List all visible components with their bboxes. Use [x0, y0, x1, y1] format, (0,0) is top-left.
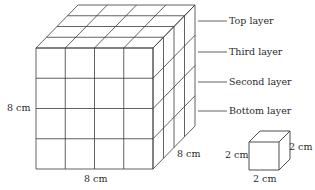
small-cube-width-label: 2 cm [253, 174, 276, 184]
large-cube-depth-label: 8 cm [177, 149, 200, 159]
cube-drawing [0, 0, 315, 190]
large-cube [36, 5, 195, 169]
small-cube-depth-label: 2 cm [289, 142, 312, 152]
large-cube-width-label: 8 cm [84, 174, 107, 184]
small-cube-height-label: 2 cm [225, 150, 248, 160]
label-third-layer: Third layer [229, 47, 282, 57]
label-second-layer: Second layer [229, 77, 292, 87]
layer-leader-lines [198, 21, 227, 111]
label-bottom-layer: Bottom layer [229, 106, 291, 116]
large-cube-height-label: 8 cm [7, 103, 30, 113]
small-cube [249, 131, 290, 170]
label-top-layer: Top layer [229, 16, 274, 26]
cube-layers-diagram: Top layer Third layer Second layer Botto… [0, 0, 315, 190]
